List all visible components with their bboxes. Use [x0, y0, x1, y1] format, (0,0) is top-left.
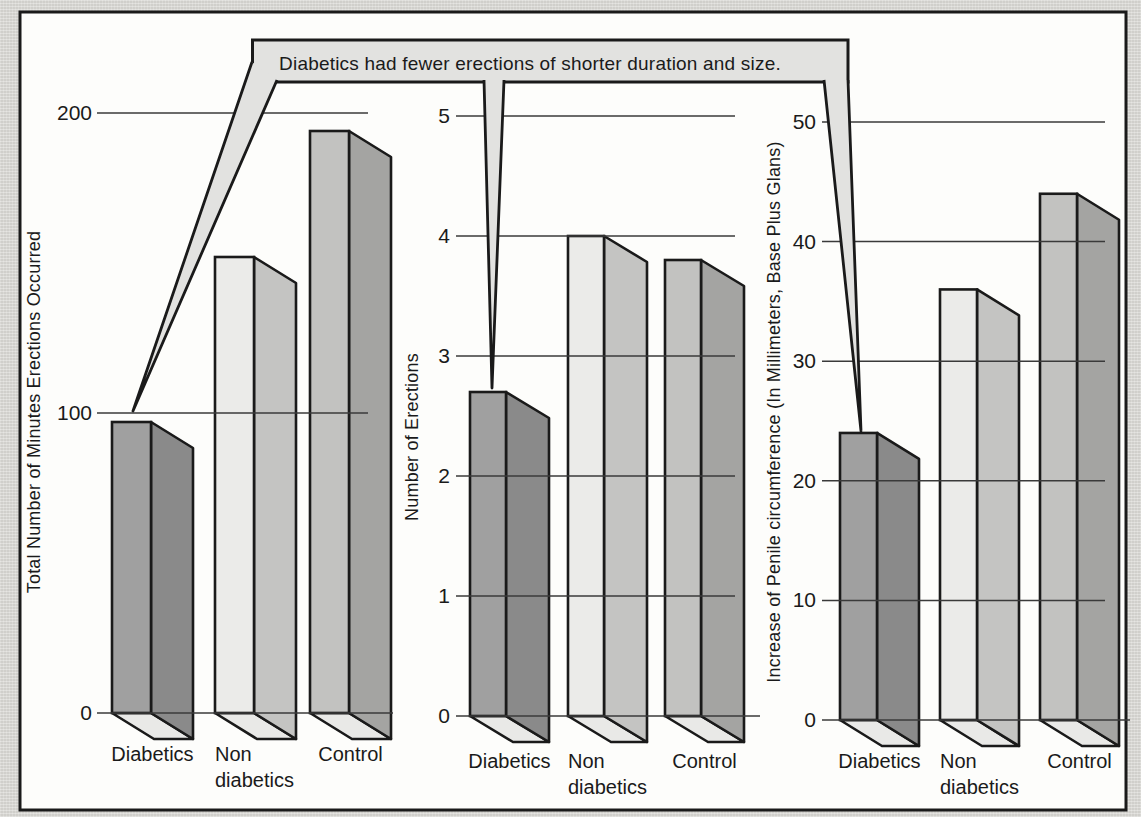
bar-diabetics [840, 433, 919, 746]
y-axis-title: Increase of Penile circumference (In Mil… [764, 141, 784, 682]
bar-side-face [506, 392, 549, 742]
category-label: Non [568, 750, 605, 772]
y-tick-label: 4 [438, 224, 450, 247]
category-label: Control [1047, 750, 1111, 772]
category-label: Non [940, 750, 977, 772]
bar-non-diabetics [215, 257, 296, 739]
bar-front-face [310, 131, 349, 713]
y-tick-label: 0 [80, 701, 92, 724]
bar-non-diabetics [568, 236, 647, 742]
bar-side-face [701, 260, 744, 742]
category-label: Non [215, 743, 252, 765]
bar-diabetics [470, 392, 549, 742]
figure-svg: 0100200Total Number of Minutes Erections… [0, 0, 1141, 817]
category-label: diabetics [215, 769, 294, 791]
bar-front-face [470, 392, 506, 716]
page-background: 0100200Total Number of Minutes Erections… [0, 0, 1141, 817]
category-label: diabetics [568, 776, 647, 798]
bar-side-face [877, 433, 919, 746]
bar-side-face [977, 289, 1019, 746]
bar-front-face [112, 422, 151, 713]
bar-side-face [349, 131, 391, 739]
bar-front-face [840, 433, 877, 720]
category-label: Control [318, 743, 382, 765]
y-tick-label: 100 [57, 401, 92, 424]
bar-front-face [1040, 194, 1077, 720]
bar-non-diabetics [940, 289, 1019, 746]
y-tick-label: 2 [438, 464, 450, 487]
bar-diabetics [112, 422, 193, 739]
category-label: Control [672, 750, 736, 772]
y-tick-label: 10 [793, 588, 816, 611]
bar-side-face [254, 257, 296, 739]
bar-side-face [1077, 194, 1119, 746]
bar-control [310, 131, 391, 739]
y-tick-label: 40 [793, 230, 816, 253]
y-axis-title: Number of Erections [402, 353, 422, 521]
y-tick-label: 0 [804, 708, 816, 731]
category-label: diabetics [940, 776, 1019, 798]
bar-front-face [940, 289, 977, 720]
y-tick-label: 3 [438, 344, 450, 367]
y-tick-label: 5 [438, 104, 450, 127]
category-label: Diabetics [838, 750, 920, 772]
y-axis-title: Total Number of Minutes Erections Occurr… [24, 231, 44, 594]
callout-text: Diabetics had fewer erections of shorter… [279, 53, 781, 74]
bar-front-face [215, 257, 254, 713]
y-tick-label: 200 [57, 101, 92, 124]
bar-side-face [151, 422, 193, 739]
y-tick-label: 30 [793, 349, 816, 372]
bar-control [665, 260, 744, 742]
y-tick-label: 50 [793, 110, 816, 133]
bar-control [1040, 194, 1119, 746]
y-tick-label: 1 [438, 584, 450, 607]
y-tick-label: 0 [438, 704, 450, 727]
y-tick-label: 20 [793, 469, 816, 492]
category-label: Diabetics [468, 750, 550, 772]
category-label: Diabetics [111, 743, 193, 765]
bar-front-face [665, 260, 701, 716]
bar-side-face [604, 236, 647, 742]
